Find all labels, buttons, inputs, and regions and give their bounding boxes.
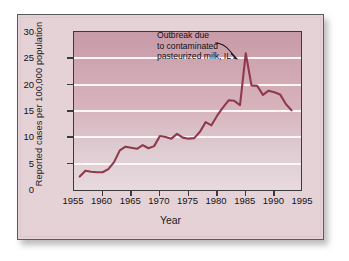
y-tick-mark: [67, 84, 73, 86]
chart-panel: Reported cases per 100,000 population 30…: [17, 14, 324, 240]
annotation-arrow-icon: [214, 39, 248, 61]
y-tick-label-20: 20: [10, 79, 34, 90]
y-tick-label-25: 25: [10, 52, 34, 63]
y-tick-mark: [67, 136, 73, 138]
y-tick-label-15: 15: [10, 105, 34, 116]
x-tick-mark: [245, 191, 247, 196]
y-tick-label-5: 5: [10, 158, 34, 169]
x-tick-mark: [159, 191, 161, 196]
x-tick-mark: [273, 191, 275, 196]
y-tick-label-10: 10: [10, 131, 34, 142]
x-tick-mark: [102, 191, 104, 196]
x-tick-mark: [130, 191, 132, 196]
y-tick-mark: [67, 110, 73, 112]
y-tick-label-30: 30: [10, 26, 34, 37]
x-tick-label-1995: 1995: [282, 195, 322, 206]
x-axis-title: Year: [18, 214, 323, 226]
y-tick-label-0: 0: [10, 184, 34, 195]
y-tick-mark: [67, 163, 73, 165]
x-tick-mark: [188, 191, 190, 196]
y-tick-mark: [67, 57, 73, 59]
y-axis-title: Reported cases per 100,000 population: [34, 19, 44, 189]
x-tick-mark: [216, 191, 218, 196]
figure-root: Reported cases per 100,000 population 30…: [0, 0, 349, 261]
series-path: [80, 53, 292, 176]
